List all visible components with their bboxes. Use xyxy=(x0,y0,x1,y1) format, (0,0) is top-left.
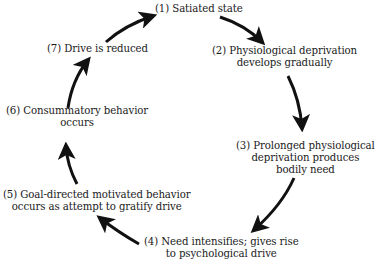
node-1-satiated-state: (1) Satiated state xyxy=(155,3,243,15)
arrow-6-to-7 xyxy=(68,60,88,108)
node-2-physiological-deprivation: (2) Physiological deprivation develops g… xyxy=(212,45,357,69)
arrow-3-to-4 xyxy=(254,178,294,230)
node-3-prolonged-deprivation: (3) Prolonged physiological deprivation … xyxy=(236,140,375,176)
node-6-consummatory-behavior: (6) Consummatory behavior occurs xyxy=(6,105,148,129)
arrow-7-to-1 xyxy=(106,16,153,42)
arrow-2-to-3 xyxy=(288,76,302,128)
arrow-1-to-2 xyxy=(220,17,262,42)
arrow-5-to-6 xyxy=(66,146,77,184)
node-7-drive-reduced: (7) Drive is reduced xyxy=(47,43,148,55)
node-5-goal-directed-behavior: (5) Goal-directed motivated behavior occ… xyxy=(3,189,190,213)
node-4-need-intensifies: (4) Need intensifies; gives rise to psyc… xyxy=(144,236,299,260)
arrow-4-to-5 xyxy=(100,218,139,244)
